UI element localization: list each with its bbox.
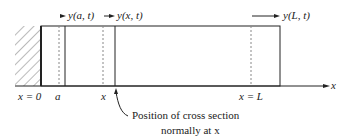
label-a: a: [55, 91, 61, 102]
label-y-a-t: y(a, t): [68, 10, 94, 21]
label-x-equals-L: x = L: [239, 91, 263, 102]
label-y-x-t: y(x, t): [117, 10, 143, 21]
label-x-axis: x: [331, 80, 336, 91]
fixed-wall-hatch: [15, 26, 41, 86]
x-axis-arrowhead: [323, 84, 330, 88]
bar-outline: [41, 26, 280, 86]
label-y-L-t: y(L, t): [283, 10, 310, 21]
annotation-pointer: [116, 92, 128, 116]
annotation-line-1: Position of cross section: [132, 110, 239, 121]
label-x: x: [101, 91, 106, 102]
label-x-equals-0: x = 0: [18, 91, 41, 102]
annotation-arrowhead: [114, 88, 118, 94]
annotation-line-2: normally at x: [161, 125, 220, 136]
